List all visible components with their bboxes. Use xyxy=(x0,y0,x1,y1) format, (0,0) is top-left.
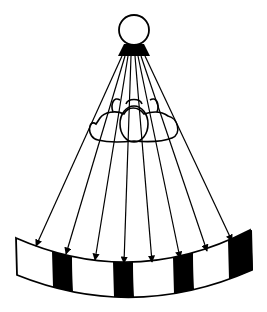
screen-stripe xyxy=(72,256,114,297)
screen-stripe xyxy=(173,253,194,294)
ray-arrow-icon xyxy=(135,56,152,262)
light-rays xyxy=(36,56,232,263)
screen-stripe xyxy=(52,251,73,292)
screen-stripe xyxy=(133,257,174,297)
diagram-canvas xyxy=(0,0,267,312)
screen-stripe xyxy=(113,262,134,297)
cloud-shaped-object-icon xyxy=(90,99,178,142)
projection-diagram xyxy=(0,0,267,312)
ray-arrow-icon xyxy=(95,56,128,260)
ray-arrow-icon xyxy=(124,56,131,263)
ray-arrow-icon xyxy=(36,56,122,246)
light-source-icon xyxy=(119,15,149,45)
curved-striped-screen xyxy=(16,230,253,297)
ray-arrow-icon xyxy=(66,56,125,254)
ray-arrow-icon xyxy=(145,56,232,241)
ray-arrow-icon xyxy=(141,56,207,251)
